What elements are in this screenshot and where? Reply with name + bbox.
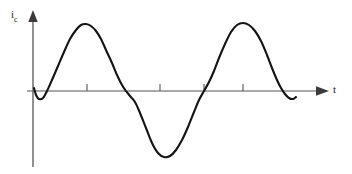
y-axis-label-subscript: c [14, 15, 18, 24]
y-axis-group [28, 10, 37, 167]
waveform-figure: ic t [0, 0, 352, 174]
y-axis-label: ic [11, 9, 18, 23]
waveform-plot-svg [0, 0, 352, 174]
x-axis-label: t [333, 84, 336, 95]
up-arrow-icon [28, 10, 37, 22]
waveform-curve [34, 23, 296, 157]
right-arrow-icon [316, 86, 329, 96]
x-axis-ticks [87, 84, 243, 91]
